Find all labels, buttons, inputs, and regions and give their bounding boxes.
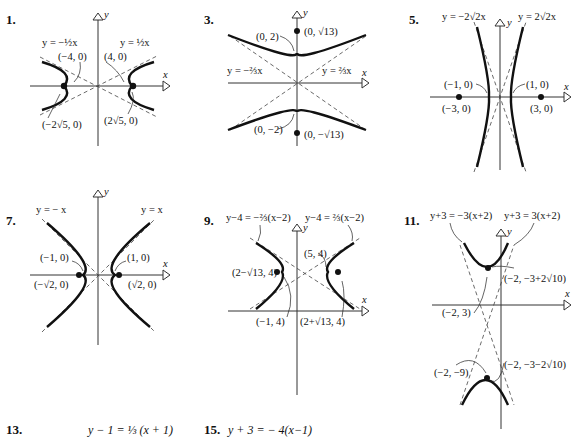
svg-text:y = ½x: y = ½x — [120, 37, 150, 48]
problem-5-graph: 5. y x y = −2√2x y = 2√2x (−1, 0) (1, 0)… — [380, 0, 578, 165]
svg-text:y = − x: y = − x — [36, 204, 67, 215]
problem-11-graph: 11. y x y+3 = −3(x+2) y+3 = 3(x+2) (−2, … — [380, 205, 578, 435]
svg-text:y = 2√2x: y = 2√2x — [518, 11, 557, 22]
svg-text:(3, 0): (3, 0) — [530, 103, 553, 115]
problem-3-graph: 3. y x (0, √13) (0, −√13) (0, 2) (0, −2)… — [190, 0, 380, 155]
svg-text:x: x — [563, 81, 569, 92]
svg-text:(2−√13, 4): (2−√13, 4) — [232, 267, 277, 279]
svg-text:(√2, 0): (√2, 0) — [128, 279, 157, 291]
svg-text:(1, 0): (1, 0) — [127, 252, 150, 264]
svg-text:(−1, 0): (−1, 0) — [444, 79, 473, 91]
svg-text:(−2, −3−2√10): (−2, −3−2√10) — [504, 359, 567, 371]
svg-text:y−4 = ⅔(x−2): y−4 = ⅔(x−2) — [305, 212, 364, 224]
svg-text:y+3 = −3(x+2): y+3 = −3(x+2) — [430, 210, 493, 222]
problem-number: 15. — [204, 422, 220, 438]
hyperbola-plot: y x y = −½x y = ½x (−4, 0) (4, 0) (−2√5,… — [0, 0, 190, 155]
svg-text:(0, −2): (0, −2) — [254, 124, 283, 136]
svg-text:(2√5, 0): (2√5, 0) — [104, 115, 138, 127]
svg-text:(−1, 0): (−1, 0) — [40, 252, 69, 264]
svg-text:(−2√5, 0): (−2√5, 0) — [42, 119, 82, 131]
svg-text:y: y — [506, 17, 512, 28]
problem-1-graph: 1. y x y = −½x y = ½x (−4, 0) (4, 0) (−2… — [0, 0, 190, 155]
svg-text:y = −½x: y = −½x — [42, 37, 78, 48]
svg-text:y = ⅔x: y = ⅔x — [322, 65, 352, 76]
svg-text:x: x — [564, 288, 570, 299]
svg-text:(−2, −9): (−2, −9) — [434, 367, 469, 379]
svg-text:y = −2√2x: y = −2√2x — [442, 11, 487, 22]
svg-text:y: y — [103, 9, 109, 20]
hyperbola-plot: y x y+3 = −3(x+2) y+3 = 3(x+2) (−2, −3+2… — [380, 205, 578, 435]
svg-text:(0, −√13): (0, −√13) — [304, 129, 344, 141]
svg-text:(4, 0): (4, 0) — [104, 51, 127, 63]
svg-text:y+3 = 3(x+2): y+3 = 3(x+2) — [504, 210, 561, 222]
svg-text:(−2, −3+2√10): (−2, −3+2√10) — [504, 273, 567, 285]
answer-15: 15. y + 3 = − 4(x−1) — [190, 422, 380, 442]
svg-text:y−4 = −⅔(x−2): y−4 = −⅔(x−2) — [226, 212, 291, 224]
svg-text:y = x: y = x — [141, 204, 163, 215]
svg-text:x: x — [361, 67, 367, 78]
problem-7-graph: 7. y x y = − x y = x (−1, 0) (1, 0) (−√2… — [0, 205, 190, 405]
svg-text:(−4, 0): (−4, 0) — [58, 51, 87, 63]
hyperbola-plot: y x y = −2√2x y = 2√2x (−1, 0) (1, 0) (−… — [380, 0, 578, 165]
hyperbola-plot: y x (0, √13) (0, −√13) (0, 2) (0, −2) y … — [190, 0, 380, 155]
answer-equation: y + 3 = − 4(x−1) — [228, 423, 312, 438]
svg-text:y: y — [506, 226, 512, 237]
hyperbola-plot: y x y−4 = −⅔(x−2) y−4 = ⅔(x−2) (2−√13, 4… — [190, 205, 380, 405]
svg-text:x: x — [162, 69, 168, 80]
svg-text:(−1, 4): (−1, 4) — [256, 316, 285, 328]
svg-text:(−3, 0): (−3, 0) — [442, 103, 471, 115]
svg-text:(1, 0): (1, 0) — [526, 79, 549, 91]
problem-9-graph: 9. y x y−4 = −⅔(x−2) y−4 = ⅔(x−2) (2−√13… — [190, 205, 380, 405]
answer-equation: y − 1 = ⅓ (x + 1) — [88, 423, 173, 438]
svg-text:(0, √13): (0, √13) — [304, 26, 338, 38]
svg-text:y: y — [302, 7, 308, 18]
svg-text:x: x — [361, 294, 367, 305]
hyperbola-plot: y x y = − x y = x (−1, 0) (1, 0) (−√2, 0… — [0, 205, 190, 405]
svg-text:(−√2, 0): (−√2, 0) — [34, 279, 69, 291]
svg-text:y: y — [103, 186, 109, 197]
svg-text:(0, 2): (0, 2) — [256, 31, 279, 43]
answer-13: 13. y − 1 = ⅓ (x + 1) — [0, 422, 180, 442]
svg-text:x: x — [162, 258, 168, 269]
problem-number: 13. — [6, 422, 22, 438]
svg-text:y = −⅔x: y = −⅔x — [227, 65, 263, 76]
svg-text:(−2, 3): (−2, 3) — [442, 307, 471, 319]
svg-text:y: y — [302, 222, 308, 233]
svg-text:(2+√13, 4): (2+√13, 4) — [300, 316, 345, 328]
